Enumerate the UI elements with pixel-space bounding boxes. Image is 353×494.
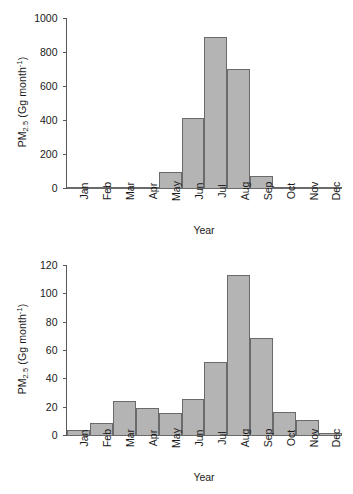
bar-cell — [113, 266, 136, 436]
x-axis-tick-label-dec: Dec — [330, 429, 342, 448]
x-axis-tick-label-jun: Jun — [193, 430, 205, 447]
x-axis-tick-label-mar: Mar — [124, 429, 136, 447]
bar-cell — [67, 266, 90, 436]
y-axis-title-mid-top: (Gg month — [16, 67, 28, 121]
x-axis-tick-label-apr: Apr — [147, 183, 159, 199]
y-axis-tick-label: 80 — [46, 316, 58, 328]
x-axis-tick-label-dec: Dec — [330, 182, 342, 201]
x-tick-cell: Jan — [67, 190, 90, 224]
x-axis-tick-labels-bottom: JanFebMarAprMayJunJulAugSepOctNovDec — [67, 437, 342, 471]
bar-jun — [182, 118, 205, 189]
y-axis-title-subscript-bottom: 2.5 — [21, 368, 30, 379]
x-axis-tick-label-aug: Aug — [239, 182, 251, 201]
x-tick-cell: Mar — [113, 190, 136, 224]
y-axis-title-mid-bottom: (Gg month — [16, 314, 28, 368]
bar-cell — [227, 266, 250, 436]
bar-cell — [182, 19, 205, 189]
bar-cell — [136, 266, 159, 436]
bar-series-top — [67, 19, 342, 189]
chart-panel-bottom: PM2.5 (Gg month-1) 020406080100120 JanFe… — [0, 247, 353, 494]
x-axis-tick-label-jun: Jun — [193, 183, 205, 200]
y-axis-title-prefix-bottom: PM — [16, 378, 28, 394]
x-axis-tick-labels-top: JanFebMarAprMayJunJulAugSepOctNovDec — [67, 190, 342, 224]
y-axis-tick-label: 600 — [40, 80, 58, 92]
bar-cell — [273, 266, 296, 436]
y-axis-tick-label: 400 — [40, 114, 58, 126]
x-axis-tick-label-jan: Jan — [78, 183, 90, 200]
x-tick-cell: Mar — [113, 437, 136, 471]
x-axis-tick-label-may: May — [170, 181, 182, 201]
y-axis-tick-label: 100 — [40, 287, 58, 299]
x-axis-tick-label-may: May — [170, 428, 182, 448]
y-axis-title-prefix-top: PM — [16, 131, 28, 147]
x-tick-cell: May — [159, 437, 182, 471]
x-axis-title-bottom: Year — [66, 471, 342, 483]
bar-cell — [204, 266, 227, 436]
bar-cell — [273, 19, 296, 189]
x-tick-cell: Jul — [204, 190, 227, 224]
x-tick-cell: Jul — [204, 437, 227, 471]
x-axis-tick-label-nov: Nov — [308, 429, 320, 448]
bar-cell — [204, 19, 227, 189]
bar-cell — [90, 266, 113, 436]
y-axis-tick-label: 120 — [40, 259, 58, 271]
figure: PM2.5 (Gg month-1) 02004006008001000 Jan… — [0, 0, 353, 494]
bar-cell — [250, 266, 273, 436]
x-tick-cell: Jun — [182, 190, 205, 224]
x-tick-cell: Nov — [296, 437, 319, 471]
y-axis-title-subscript-top: 2.5 — [21, 121, 30, 132]
x-tick-cell: Oct — [273, 190, 296, 224]
bar-cell — [90, 19, 113, 189]
bar-cell — [159, 266, 182, 436]
y-axis-title-top: PM2.5 (Gg month-1) — [16, 22, 28, 182]
x-axis-tick-label-oct: Oct — [285, 430, 297, 446]
bar-cell — [319, 19, 342, 189]
bar-cell — [113, 19, 136, 189]
y-axis-title-superscript-bottom: -1 — [15, 307, 24, 314]
bar-jul — [204, 37, 227, 189]
bar-aug — [227, 69, 250, 189]
x-tick-cell: Nov — [296, 190, 319, 224]
x-axis-tick-label-apr: Apr — [147, 430, 159, 446]
y-axis-tick-label: 60 — [46, 344, 58, 356]
x-axis-tick-label-jul: Jul — [216, 431, 228, 444]
bar-cell — [182, 266, 205, 436]
y-axis-tick-label: 800 — [40, 46, 58, 58]
chart-panel-top: PM2.5 (Gg month-1) 02004006008001000 Jan… — [0, 0, 353, 247]
x-tick-cell: Feb — [90, 437, 113, 471]
x-axis-tick-label-jul: Jul — [216, 184, 228, 197]
y-axis-tick-label: 40 — [46, 372, 58, 384]
bar-cell — [227, 19, 250, 189]
x-axis-tick-label-jan: Jan — [78, 430, 90, 447]
y-axis-tick-label: 1000 — [34, 12, 57, 24]
x-axis-tick-label-sep: Sep — [262, 429, 274, 448]
x-axis-tick-label-aug: Aug — [239, 429, 251, 448]
bar-cell — [67, 19, 90, 189]
x-axis-tick-label-feb: Feb — [101, 429, 113, 447]
x-axis-tick-label-nov: Nov — [308, 182, 320, 201]
x-tick-cell: Apr — [136, 190, 159, 224]
x-axis-tick-label-feb: Feb — [101, 182, 113, 200]
bar-sep — [250, 338, 273, 436]
x-tick-cell: Dec — [319, 190, 342, 224]
x-tick-cell: Dec — [319, 437, 342, 471]
y-axis-tick-label: 20 — [46, 401, 58, 413]
x-tick-cell: Aug — [227, 190, 250, 224]
y-axis-tick-label: 0 — [52, 182, 58, 194]
plot-area-bottom: 020406080100120 — [66, 266, 342, 436]
x-tick-cell: Apr — [136, 437, 159, 471]
bar-cell — [159, 19, 182, 189]
x-tick-cell: Sep — [250, 437, 273, 471]
y-axis-tick-label: 200 — [40, 148, 58, 160]
bar-cell — [136, 19, 159, 189]
x-tick-cell: Feb — [90, 190, 113, 224]
bar-jul — [204, 362, 227, 436]
x-tick-cell: Sep — [250, 190, 273, 224]
x-axis-tick-label-oct: Oct — [285, 183, 297, 199]
x-tick-cell: Jun — [182, 437, 205, 471]
bar-series-bottom — [67, 266, 342, 436]
bar-cell — [296, 19, 319, 189]
x-tick-cell: Oct — [273, 437, 296, 471]
x-tick-cell: May — [159, 190, 182, 224]
plot-area-top: 02004006008001000 — [66, 19, 342, 189]
